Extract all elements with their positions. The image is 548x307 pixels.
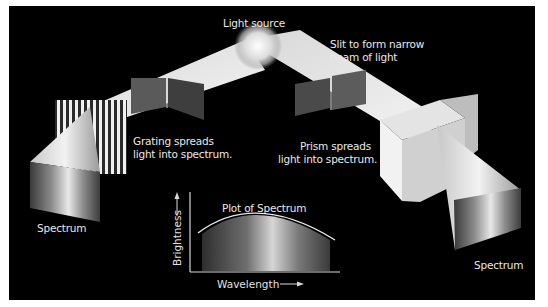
label-spectrum-right: Spectrum: [474, 259, 523, 271]
label-prism-line1: Prism spreads: [300, 140, 371, 152]
label-grating-line2: light into spectrum.: [133, 148, 232, 160]
spectrum-diagram: Light source Slit to form narrow beam of…: [0, 0, 548, 307]
slit-right-back: [332, 70, 366, 110]
label-slit-line1: Slit to form narrow: [330, 38, 424, 50]
label-spectrum-left: Spectrum: [37, 222, 86, 234]
diagram-canvas: [0, 0, 548, 307]
plot-title: Plot of Spectrum: [222, 202, 306, 214]
label-slit-line2: beam of light: [330, 51, 397, 63]
label-light-source: Light source: [223, 17, 285, 29]
sun-glow-icon: [234, 22, 282, 70]
plot-xlabel: Wavelength: [217, 278, 279, 290]
label-prism-line2: light into spectrum.: [278, 153, 377, 165]
label-grating-line1: Grating spreads: [133, 135, 214, 147]
plot-ylabel: Brightness: [171, 210, 183, 266]
